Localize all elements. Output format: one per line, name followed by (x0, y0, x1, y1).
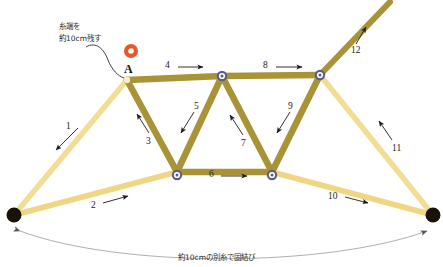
step-label-1: 1 (66, 122, 71, 132)
start-note-line2: 約10cm残す (59, 34, 101, 45)
step-label-8: 8 (263, 61, 268, 71)
arrow-5 (181, 112, 194, 133)
step-label-10: 10 (328, 192, 338, 202)
segment-12-line (320, 2, 390, 75)
bottom-note: 約10cmの別糸で固結び (178, 253, 255, 264)
dark-strands (127, 2, 390, 172)
segment-8-line (222, 75, 320, 76)
segment-5-line (177, 76, 222, 172)
segment-3-line (127, 80, 177, 172)
diagram-canvas: 糸端を 約10cm残す 約10cmの別糸で固結び A 1 2 3 4 5 6 7… (0, 0, 443, 267)
segment-10-line (272, 172, 433, 215)
start-note-line1: 糸端を (59, 22, 80, 33)
start-point-label: A (124, 62, 133, 77)
step-label-11: 11 (392, 144, 401, 154)
step-label-3: 3 (146, 137, 151, 147)
step-label-4: 4 (165, 61, 170, 71)
segment-9-line (272, 75, 320, 172)
step-label-7: 7 (241, 139, 246, 149)
anchor-left-dot[interactable] (7, 208, 22, 223)
step-label-9: 9 (288, 102, 293, 112)
start-marker-icon (124, 44, 138, 58)
arrow-9 (277, 112, 290, 133)
node-bottom-left[interactable] (172, 170, 182, 180)
note-leader-curve (86, 45, 124, 78)
segment-7-line (222, 76, 272, 172)
arrow-2 (103, 196, 128, 203)
node-top-middle[interactable] (217, 71, 227, 81)
node-a-joint[interactable] (124, 77, 130, 83)
step-label-5: 5 (194, 102, 199, 112)
anchor-right-dot[interactable] (426, 208, 441, 223)
arrow-11 (379, 121, 392, 140)
step-label-6: 6 (209, 170, 214, 180)
light-strands (14, 75, 433, 215)
node-bottom-right[interactable] (267, 170, 277, 180)
node-top-right[interactable] (315, 70, 325, 80)
segment-4-line (127, 76, 222, 80)
step-label-2: 2 (91, 201, 96, 211)
step-label-12: 12 (351, 46, 361, 56)
segment-1-line (14, 80, 127, 215)
